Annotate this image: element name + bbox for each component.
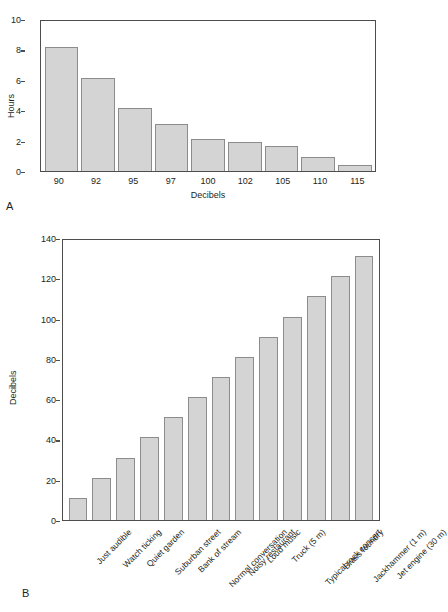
x-axis-tick-label: 100 <box>200 176 215 186</box>
x-axis-tick-label: 92 <box>91 176 101 186</box>
x-axis-tick-label: Brass foundry <box>341 527 385 571</box>
x-axis-tick-label: 105 <box>275 176 290 186</box>
panel-b-letter: B <box>22 587 30 599</box>
x-axis-tick-label: 90 <box>54 176 64 186</box>
panel-b: Decibels 020406080100120140 Just audible… <box>0 215 393 612</box>
panel-a-x-axis-ticks: 90929597100102105110115 <box>0 0 393 215</box>
x-axis-tick-label: 115 <box>350 176 364 186</box>
panel-a-x-axis-label: Decibels <box>40 190 376 200</box>
panel-a: Hours 0246810 90929597100102105110115 De… <box>0 0 393 215</box>
x-axis-tick-label: 97 <box>166 176 176 186</box>
x-axis-tick-label: 110 <box>313 176 327 186</box>
panel-b-x-axis-ticks: Just audibleWatch tickingQuiet gardenSub… <box>0 215 393 612</box>
x-axis-tick-label: 95 <box>128 176 138 186</box>
panel-a-letter: A <box>6 200 14 212</box>
x-axis-tick-label: 102 <box>238 176 253 186</box>
